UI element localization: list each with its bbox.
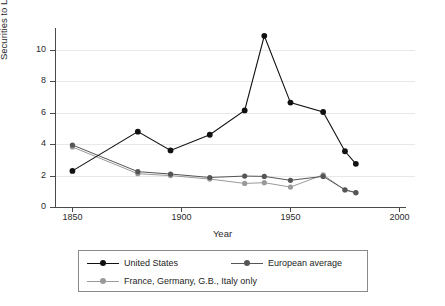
- chart-legend: United States European average France, G…: [78, 250, 368, 292]
- data-point-marker: [168, 148, 174, 154]
- data-point-marker: [70, 142, 75, 147]
- x-axis-tick-label: 2000: [379, 212, 419, 222]
- data-point-marker: [320, 109, 326, 115]
- data-point-marker: [342, 187, 347, 192]
- data-point-marker: [135, 169, 140, 174]
- data-point-marker: [207, 175, 212, 180]
- y-axis-tick: [50, 50, 55, 51]
- y-axis-tick: [50, 81, 55, 82]
- chart-figure: Securities to Loans Ratio Year United St…: [0, 0, 445, 306]
- y-axis-tick-label: 10: [22, 45, 46, 54]
- legend-marker-icon: [231, 258, 263, 268]
- data-point-marker: [135, 129, 141, 135]
- legend-label: France, Germany, G.B., Italy only: [124, 276, 257, 286]
- data-point-marker: [70, 168, 76, 174]
- data-point-marker: [353, 190, 358, 195]
- data-point-marker: [353, 161, 359, 167]
- data-point-marker: [242, 173, 247, 178]
- legend-item-united-states[interactable]: United States: [87, 254, 178, 272]
- y-axis-tick-label: 0: [22, 202, 46, 211]
- data-point-marker: [242, 108, 248, 114]
- series-line: [72, 36, 355, 171]
- data-point-marker: [207, 132, 213, 138]
- legend-marker-icon: [87, 276, 119, 286]
- data-point-marker: [261, 33, 267, 39]
- legend-item-european-average[interactable]: European average: [231, 254, 342, 272]
- data-point-marker: [262, 174, 267, 179]
- x-axis-tick-label: 1850: [52, 212, 92, 222]
- data-point-marker: [288, 178, 293, 183]
- data-point-marker: [168, 171, 173, 176]
- legend-label: European average: [268, 258, 342, 268]
- y-axis-tick-label: 6: [22, 108, 46, 117]
- y-axis-tick-label: 8: [22, 76, 46, 85]
- data-point-marker: [321, 174, 326, 179]
- legend-label: United States: [124, 258, 178, 268]
- legend-item-france-germany-gb-italy[interactable]: France, Germany, G.B., Italy only: [87, 272, 257, 290]
- data-point-marker: [242, 181, 247, 186]
- data-point-marker: [262, 180, 267, 185]
- y-axis-tick: [50, 144, 55, 145]
- x-axis-tick-label: 1950: [270, 212, 310, 222]
- y-axis-tick: [50, 113, 55, 114]
- data-point-marker: [342, 148, 348, 154]
- data-point-marker: [288, 184, 293, 189]
- series-line: [72, 145, 355, 193]
- y-axis-tick-label: 4: [22, 139, 46, 148]
- y-axis-tick: [50, 207, 55, 208]
- series-line: [72, 147, 355, 193]
- y-axis-tick-label: 2: [22, 171, 46, 180]
- x-axis-tick-label: 1900: [161, 212, 201, 222]
- data-point-marker: [288, 100, 294, 106]
- legend-marker-icon: [87, 258, 119, 268]
- y-axis-tick: [50, 176, 55, 177]
